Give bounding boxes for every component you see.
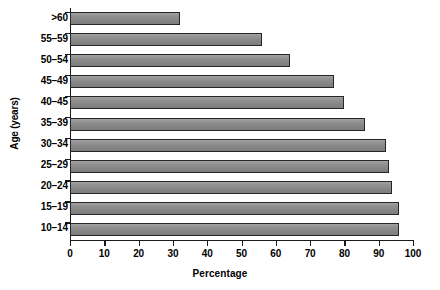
bar: [70, 12, 180, 25]
y-axis-tick-label: 25–29: [41, 159, 68, 170]
x-axis-tick: [70, 241, 71, 246]
x-axis-tick: [104, 241, 105, 246]
y-axis-tick-label: 10–14: [41, 222, 68, 233]
x-axis-tick: [344, 241, 345, 246]
x-axis-tick: [310, 241, 311, 246]
bar-fill: [70, 96, 344, 109]
y-axis-tick-label: 15–19: [41, 201, 68, 212]
x-axis-tick: [242, 241, 243, 246]
y-axis-title: Age (years): [9, 64, 20, 184]
x-axis-tick: [276, 241, 277, 246]
bar: [70, 75, 334, 88]
bar-fill: [70, 160, 389, 173]
bar-fill: [70, 75, 334, 88]
bar: [70, 139, 386, 152]
bar: [70, 33, 262, 46]
bar-fill: [70, 181, 392, 194]
y-axis-tick-label: 40–45: [41, 96, 68, 107]
bar: [70, 160, 389, 173]
x-axis-tick: [173, 241, 174, 246]
y-axis-tick-label: 55–59: [41, 33, 68, 44]
x-axis-title: Percentage: [0, 268, 440, 279]
x-axis-tick: [139, 241, 140, 246]
x-axis-tick-label: 100: [393, 248, 433, 259]
bar-fill: [70, 202, 399, 215]
bar-fill: [70, 54, 290, 67]
bar-fill: [70, 33, 262, 46]
bar: [70, 96, 344, 109]
y-axis-tick-label: 35–39: [41, 117, 68, 128]
x-axis-tick: [413, 241, 414, 246]
bar-fill: [70, 118, 365, 131]
bar: [70, 223, 399, 236]
bar-chart: Age (years) 10–1415–1920–2425–2930–3435–…: [0, 0, 440, 290]
bar: [70, 181, 392, 194]
x-axis-tick: [379, 241, 380, 246]
bar-fill: [70, 12, 180, 25]
bar: [70, 54, 290, 67]
y-axis-tick-label: 50–54: [41, 54, 68, 65]
y-axis-tick-label: 30–34: [41, 138, 68, 149]
y-axis-tick-label: 45–49: [41, 75, 68, 86]
y-axis-tick-label: 20–24: [41, 180, 68, 191]
y-axis-tick-label: >60: [51, 12, 68, 23]
x-axis-tick: [207, 241, 208, 246]
bar-fill: [70, 223, 399, 236]
bar: [70, 202, 399, 215]
bar: [70, 118, 365, 131]
bar-fill: [70, 139, 386, 152]
